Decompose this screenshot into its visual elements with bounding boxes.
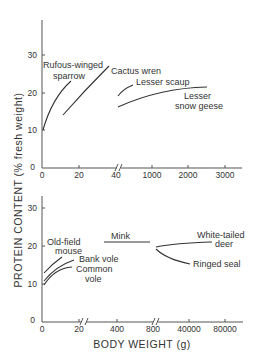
top-y-tick-label: 20 (28, 88, 38, 98)
label-lesser-snow-geese: snow geese (175, 101, 223, 111)
bottom-y-tick-label: 30 (28, 203, 38, 213)
label-old-field-mouse: mouse (55, 246, 82, 256)
label-common-vole: Common (76, 264, 113, 274)
label-common-vole: vole (85, 274, 102, 284)
bottom-y-tick-label: 20 (28, 241, 38, 251)
bottom-x-tick-label: 400 (110, 324, 124, 334)
top-x-tick-label: 2000 (179, 170, 198, 180)
top-x-tick-label: 1000 (143, 170, 162, 180)
label-lesser-snow-geese: Lesser (184, 91, 211, 101)
top-y-tick-label: 10 (28, 125, 38, 135)
label-mink: Mink (111, 231, 131, 241)
curve-white-tailed-deer (156, 242, 212, 247)
bottom-x-tick-label: 40000 (177, 324, 201, 334)
label-ringed-seal: Ringed seal (193, 259, 241, 269)
top-x-tick-label: 20 (74, 170, 84, 180)
top-y-tick-label: 0 (30, 162, 35, 172)
label-rufous-winged-sparrow: sparrow (53, 71, 86, 81)
bottom-y-tick-label: 10 (28, 279, 38, 289)
curve-lesser-scaup (118, 85, 133, 96)
bottom-x-tick-label: 20 (74, 324, 84, 334)
bottom-x-tick-label: 0 (40, 324, 45, 334)
label-rufous-winged-sparrow: Rufous-winged (43, 60, 103, 70)
curve-rufous-winged-sparrow (43, 81, 71, 130)
top-x-tick-label: 40 (111, 170, 121, 180)
curve-ringed-seal (156, 249, 190, 264)
bottom-panel-mammals: 30 20 10 0 0 20 400 800 40000 80000 BODY… (28, 196, 245, 350)
protein-content-chart: PROTEIN CONTENT (% fresh weight) 30 20 1… (0, 0, 257, 357)
bottom-x-tick-label: 800 (146, 324, 160, 334)
top-panel-birds: 30 20 10 0 0 20 40 1000 2000 3000 Rufous… (28, 20, 242, 180)
bottom-y-tick-label: 0 (30, 315, 35, 325)
label-cactus-wren: Cactus wren (111, 66, 161, 76)
top-x-tick-label: 0 (40, 170, 45, 180)
label-white-tailed-deer: deer (215, 239, 233, 249)
bottom-x-tick-label: 80000 (213, 324, 237, 334)
top-x-tick-label: 3000 (216, 170, 235, 180)
y-axis-title: PROTEIN CONTENT (% fresh weight) (12, 93, 24, 288)
x-axis-title: BODY WEIGHT (g) (93, 338, 191, 350)
top-y-tick-label: 30 (28, 50, 38, 60)
label-lesser-scaup: Lesser scaup (136, 77, 190, 87)
label-bank-vole: Bank vole (79, 254, 119, 264)
